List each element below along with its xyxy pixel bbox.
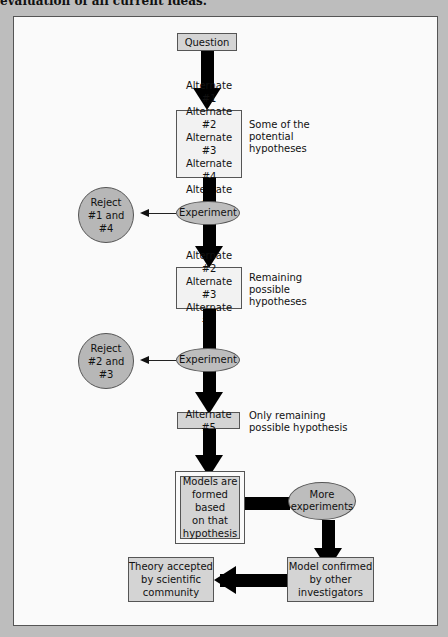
theory-label: by scientific: [141, 573, 201, 586]
caption-text: evaluation of all current ideas.: [0, 0, 207, 8]
reject-label: #1 and #4: [79, 209, 133, 235]
note-line: Only remaining: [249, 410, 347, 422]
arrow-head-left-icon: [140, 356, 149, 364]
arrow-shaft: [203, 429, 216, 457]
experiment-ellipse-2: Experiment: [176, 348, 240, 372]
question-box: Question: [177, 33, 237, 51]
note-line: Some of the: [249, 119, 310, 131]
note-remaining-hypotheses: Remaining possible hypotheses: [249, 272, 307, 308]
reject-label: #2 and #3: [79, 355, 133, 381]
theory-label: Theory accepted: [129, 560, 213, 573]
reject-circle-2: Reject #2 and #3: [78, 333, 134, 389]
reject-label: Reject: [90, 196, 121, 209]
connector-bar: [245, 497, 290, 510]
note-line: Remaining: [249, 272, 307, 284]
alternate-label: Alternate #2: [177, 105, 241, 131]
model-confirmed-label: by other: [309, 573, 351, 586]
models-label: formed based: [181, 488, 239, 514]
model-confirmed-label: investigators: [298, 586, 363, 599]
alternate-label: Alternate #3: [177, 131, 241, 157]
models-label: on that: [192, 514, 228, 527]
arrow-head-left-icon: [214, 566, 236, 594]
alternate-final-box: Alternate #5: [177, 412, 240, 429]
arrow-head-left-icon: [140, 209, 149, 217]
models-label: Models are: [183, 475, 238, 488]
note-potential-hypotheses: Some of the potential hypotheses: [249, 119, 310, 155]
theory-label: community: [143, 586, 199, 599]
alternate-label: Alternate #2: [177, 249, 241, 275]
connector-line: [146, 213, 176, 214]
experiment-label: Experiment: [179, 354, 237, 366]
models-box: Models are formed based on that hypothes…: [180, 476, 240, 539]
question-label: Question: [185, 36, 230, 49]
experiment-ellipse-1: Experiment: [176, 201, 240, 225]
note-line: potential: [249, 131, 310, 143]
alternates-box-2: Alternate #2 Alternate #3 Alternate #5: [176, 267, 242, 309]
reject-circle-1: Reject #1 and #4: [78, 187, 134, 243]
reject-label: Reject: [90, 342, 121, 355]
model-confirmed-box: Model confirmed by other investigators: [287, 557, 374, 602]
note-only-remaining: Only remaining possible hypothesis: [249, 410, 347, 434]
note-line: hypotheses: [249, 143, 310, 155]
note-line: possible hypothesis: [249, 422, 347, 434]
more-experiments-ellipse: More experiments: [288, 482, 356, 520]
connector-line: [146, 360, 176, 361]
alternate-label: Alternate #1: [177, 79, 241, 105]
note-line: possible: [249, 284, 307, 296]
model-confirmed-label: Model confirmed: [289, 560, 373, 573]
more-experiments-label: experiments: [291, 501, 354, 513]
theory-accepted-box: Theory accepted by scientific community: [128, 557, 214, 602]
alternate-label: Alternate #3: [177, 275, 241, 301]
alternates-box-1: Alternate #1 Alternate #2 Alternate #3 A…: [176, 110, 242, 178]
experiment-label: Experiment: [179, 207, 237, 219]
note-line: hypotheses: [249, 296, 307, 308]
more-experiments-label: More: [310, 489, 335, 501]
models-label: hypothesis: [183, 527, 237, 540]
